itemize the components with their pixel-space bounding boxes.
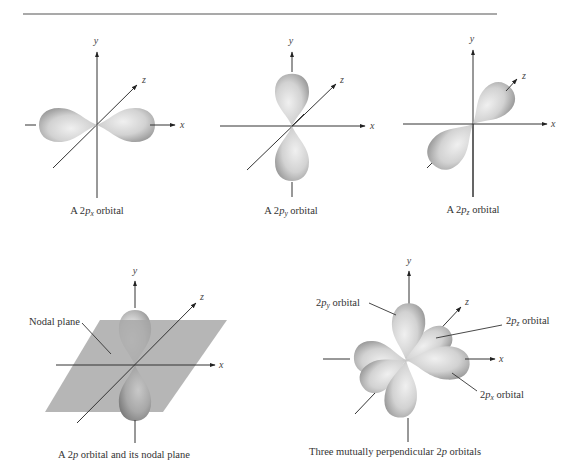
z-axis-label: z — [339, 74, 344, 85]
caption-2px: A 2px orbital — [70, 205, 124, 218]
x-axis-label: x — [498, 353, 504, 364]
z-axis-front — [355, 393, 375, 414]
panel-2px: y z x A 2px orbital — [25, 35, 185, 218]
z-axis-label: z — [199, 291, 204, 302]
nodal-plane-label: Nodal plane — [29, 316, 80, 327]
x-axis-label: x — [550, 118, 556, 129]
panel-three-orbitals: y z x 2py orbital 2pz orbital 2px orbita… — [309, 255, 550, 457]
label-2px-orbital: 2px orbital — [480, 389, 524, 402]
caption-2pz: A 2pz orbital — [446, 204, 499, 217]
caption-nodal-plane: A 2p orbital and its nodal plane — [58, 449, 190, 460]
x-axis-label: x — [218, 359, 224, 370]
z-axis-label: z — [141, 74, 146, 85]
lobe-negative-x — [39, 108, 97, 142]
caption-three-orbitals: Three mutually perpendicular 2p orbitals — [309, 446, 481, 457]
label-2pz-orbital: 2pz orbital — [506, 315, 550, 328]
x-axis-label: x — [369, 120, 375, 131]
y-axis-label: y — [406, 255, 412, 266]
py-lobes — [275, 74, 309, 181]
z-axis-label: z — [521, 70, 526, 81]
label-2py-orbital: 2py orbital — [316, 297, 360, 310]
z-axis-label: z — [464, 296, 469, 307]
leader-2py — [369, 303, 396, 315]
leader-2px — [452, 373, 477, 391]
y-axis-label: y — [93, 35, 99, 46]
y-axis-label: y — [469, 33, 475, 44]
lobe-negative-y — [275, 126, 309, 181]
lobe-positive-y — [275, 74, 309, 126]
lobe-positive-x — [97, 108, 155, 142]
caption-2py: A 2py orbital — [264, 205, 318, 218]
x-axis-label: x — [179, 119, 185, 130]
panel-nodal-plane: y z x Nodal plane A 2p orbital and its n… — [29, 265, 227, 460]
panel-2pz: y z x A 2pz orbital — [403, 33, 556, 217]
orbital-figure: y z x A 2px orbital y z x A 2py orbital … — [0, 0, 582, 471]
y-axis-label: y — [288, 35, 294, 46]
panel-2py: y z x A 2py orbital — [220, 35, 375, 218]
y-axis-label: y — [132, 265, 138, 276]
